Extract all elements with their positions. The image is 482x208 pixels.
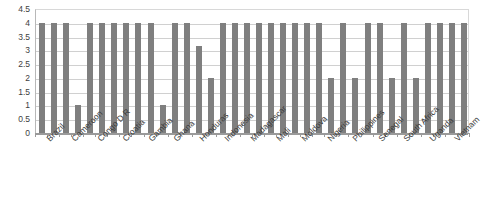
bar <box>51 23 57 133</box>
bar <box>63 23 69 133</box>
y-axis: 00.511.522.533.544.5 <box>0 9 34 133</box>
bar <box>39 23 45 133</box>
y-tick-label: 2.5 <box>18 60 30 69</box>
bar <box>232 23 238 133</box>
bar <box>184 23 190 133</box>
y-tick-label: 4.5 <box>18 5 30 14</box>
y-tick-label: 4 <box>25 19 30 28</box>
bar <box>437 23 443 133</box>
y-tick-label: 2 <box>25 74 30 83</box>
bar <box>172 23 178 133</box>
x-axis-labels: BrazilCameroonCongo D RCroatiaGambiaGhan… <box>35 137 475 208</box>
y-tick-label: 3 <box>25 46 30 55</box>
bar <box>328 78 334 133</box>
y-tick-label: 1.5 <box>18 87 30 96</box>
bar <box>352 78 358 133</box>
bar <box>196 46 202 133</box>
y-tick-label: 1 <box>25 101 30 110</box>
bar <box>148 23 154 133</box>
bar <box>292 23 298 133</box>
y-tick-label: 0.5 <box>18 115 30 124</box>
y-tick-label: 0 <box>25 129 30 138</box>
bar <box>304 23 310 133</box>
bar <box>256 23 262 133</box>
y-tick-label: 3.5 <box>18 32 30 41</box>
bar <box>461 23 467 133</box>
